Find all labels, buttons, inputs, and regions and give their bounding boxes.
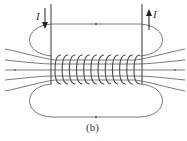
current-arrow-right xyxy=(146,9,152,30)
field-line xyxy=(5,60,185,64)
solenoid-diagram: I I (b) xyxy=(0,0,187,141)
field-lines xyxy=(5,24,185,117)
field-line-bottom-loop xyxy=(30,84,163,117)
field-direction-markers xyxy=(14,23,176,118)
current-label-left: I xyxy=(35,10,41,22)
current-label-right: I xyxy=(152,8,158,20)
arrow-marker xyxy=(95,116,97,118)
lead-wires xyxy=(51,4,142,84)
arrow-marker xyxy=(174,69,176,71)
arrow-marker xyxy=(95,23,97,25)
arrow-marker xyxy=(14,69,16,71)
field-line xyxy=(5,76,185,80)
figure-caption: (b) xyxy=(86,121,99,134)
field-line xyxy=(5,49,185,60)
field-line xyxy=(5,80,185,91)
